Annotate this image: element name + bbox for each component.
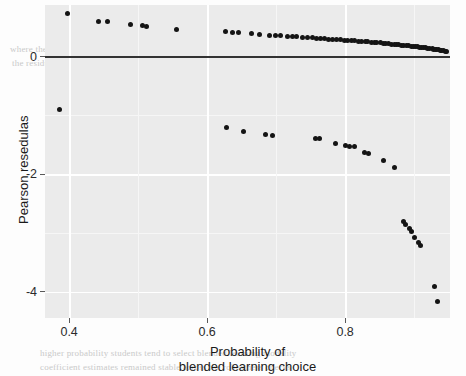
data-point	[412, 235, 417, 240]
pearson-residuals-scatter-figure: the probability of the learner choosing …	[0, 0, 466, 376]
gridline-x-major	[207, 5, 208, 318]
gridline-x-minor	[276, 5, 277, 318]
data-point	[144, 24, 149, 29]
data-point	[267, 33, 272, 38]
data-point	[236, 30, 241, 35]
x-tick-label: 0.8	[336, 325, 353, 339]
data-point	[352, 144, 357, 149]
y-tick-mark	[40, 56, 45, 57]
gridline-x-major	[345, 5, 346, 318]
data-point	[257, 32, 262, 37]
plot-panel	[45, 5, 450, 318]
x-axis-title-line1: Probability of	[45, 344, 450, 359]
data-point	[444, 49, 449, 54]
x-tick-label: 0.4	[60, 325, 77, 339]
gridline-x-minor	[414, 5, 415, 318]
y-tick-label: -4	[26, 285, 37, 299]
gridline-x-minor	[138, 5, 139, 318]
data-point	[294, 34, 299, 39]
data-point	[270, 133, 275, 138]
x-tick-mark	[69, 318, 70, 323]
gridline-x-major	[69, 5, 70, 318]
data-point	[418, 243, 423, 248]
data-point	[128, 22, 133, 27]
data-point	[224, 125, 229, 130]
data-point	[230, 30, 235, 35]
data-point	[249, 31, 254, 36]
data-point	[333, 141, 338, 146]
data-point	[285, 34, 290, 39]
data-point	[278, 33, 283, 38]
data-point	[105, 19, 110, 24]
data-point	[263, 132, 268, 137]
x-axis-title-line2: blended learning choice	[45, 359, 450, 374]
gridline-y-minor	[45, 233, 450, 234]
x-tick-label: 0.6	[198, 325, 215, 339]
data-point	[392, 165, 397, 170]
data-point	[223, 29, 228, 34]
data-point	[273, 33, 278, 38]
y-tick-mark	[40, 174, 45, 175]
data-point	[381, 158, 386, 163]
data-point	[435, 299, 440, 304]
x-tick-mark	[207, 318, 208, 323]
data-point	[305, 35, 310, 40]
y-axis-title: Pearson resedulas	[16, 115, 31, 223]
data-point	[366, 151, 371, 156]
gridline-y-minor	[45, 115, 450, 116]
zero-reference-line	[45, 56, 450, 58]
x-tick-mark	[345, 318, 346, 323]
data-point	[317, 136, 322, 141]
data-point	[57, 107, 62, 112]
data-point	[241, 129, 246, 134]
y-tick-mark	[40, 291, 45, 292]
gridline-y-major	[45, 292, 450, 293]
y-tick-label: 0	[30, 50, 37, 64]
x-axis-title: Probability ofblended learning choice	[45, 344, 450, 374]
data-point	[174, 27, 179, 32]
data-point	[65, 11, 70, 16]
gridline-y-major	[45, 174, 450, 175]
data-point	[432, 284, 437, 289]
data-point	[96, 19, 101, 24]
